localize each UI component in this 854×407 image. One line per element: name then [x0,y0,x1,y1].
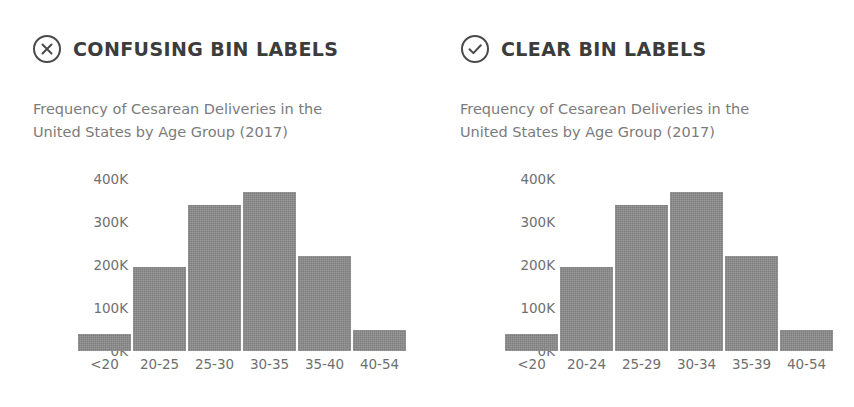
plot-area-left: 400K 300K 200K 100K 0K [78,179,406,351]
chart-clear: 400K 300K 200K 100K 0K <20 20-24 25-29 [449,170,841,380]
bar-cell [505,179,558,351]
circle-check-icon [460,34,490,64]
comparison-board: CONFUSING BIN LABELS Frequency of Cesare… [0,0,854,407]
bar [188,205,241,351]
bar-cell [298,179,351,351]
bar [560,267,613,351]
x-axis-tick: <20 [505,356,558,372]
x-axis-tick: 20-24 [560,356,613,372]
bar [353,330,406,352]
bar [133,267,186,351]
x-axis-tick: 35-40 [298,356,351,372]
plot-area-right: 400K 300K 200K 100K 0K [505,179,833,351]
bar [243,192,296,351]
x-axis-right: <20 20-24 25-29 30-34 35-39 40-54 [505,356,833,372]
panel-header-left: CONFUSING BIN LABELS [32,34,338,64]
bar-cell [133,179,186,351]
bar [725,256,778,351]
bar-cell [78,179,131,351]
bar-cell [725,179,778,351]
panel-clear-bin-labels: CLEAR BIN LABELS Frequency of Cesarean D… [427,0,854,407]
x-axis-tick: 40-54 [353,356,406,372]
bar-cell [670,179,723,351]
x-axis-tick: 25-29 [615,356,668,372]
page-title: CONFUSING BIN LABELS [73,40,338,59]
x-axis-tick: 20-25 [133,356,186,372]
bar-cell [353,179,406,351]
x-axis-tick: 25-30 [188,356,241,372]
bar-series-left [78,179,406,351]
bar [780,330,833,352]
bar-cell [615,179,668,351]
bar [670,192,723,351]
circle-x-icon [32,34,62,64]
chart-confusing: 400K 300K 200K 100K 0K <20 20-25 25-30 [22,170,414,380]
bar-series-right [505,179,833,351]
x-axis-tick: 35-39 [725,356,778,372]
bar [298,256,351,351]
panel-header-right: CLEAR BIN LABELS [460,34,707,64]
bar [615,205,668,351]
bar [505,334,558,351]
bar-cell [780,179,833,351]
x-axis-left: <20 20-25 25-30 30-35 35-40 40-54 [78,356,406,372]
bar-cell [560,179,613,351]
bar-cell [188,179,241,351]
x-axis-tick: 40-54 [780,356,833,372]
chart-subtitle: Frequency of Cesarean Deliveries in the … [33,98,363,144]
bar [78,334,131,351]
x-axis-tick: 30-35 [243,356,296,372]
bar-cell [243,179,296,351]
panel-confusing-bin-labels: CONFUSING BIN LABELS Frequency of Cesare… [0,0,427,407]
x-axis-tick: <20 [78,356,131,372]
page-title: CLEAR BIN LABELS [501,40,707,59]
chart-subtitle: Frequency of Cesarean Deliveries in the … [460,98,790,144]
x-axis-tick: 30-34 [670,356,723,372]
